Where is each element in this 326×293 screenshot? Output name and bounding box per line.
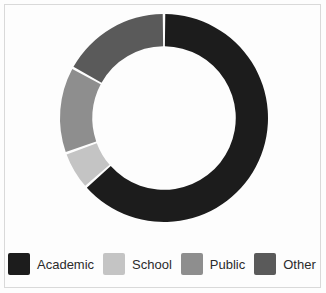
legend-item-academic[interactable]: Academic [8,253,94,275]
legend-item-other[interactable]: Other [254,253,316,275]
legend-item-public[interactable]: Public [181,253,245,275]
legend-label: Academic [37,258,94,271]
legend-label: Public [210,258,245,271]
legend-swatch-icon [103,253,125,275]
chart-figure: AcademicSchoolPublicOther [0,0,326,293]
legend-label: Other [283,258,316,271]
donut-slice-public[interactable] [60,69,101,152]
donut-svg [5,5,320,233]
donut-chart [5,5,320,233]
legend-item-school[interactable]: School [103,253,172,275]
donut-slice-other[interactable] [73,14,163,83]
legend-label: School [132,258,172,271]
chart-legend: AcademicSchoolPublicOther [8,244,318,284]
donut-chart-area [5,5,320,233]
legend-swatch-icon [254,253,276,275]
legend-swatch-icon [181,253,203,275]
legend-swatch-icon [8,253,30,275]
